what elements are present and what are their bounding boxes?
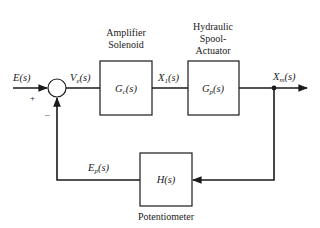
potentiometer-caption: Potentiometer: [138, 211, 195, 222]
spool-actuator-block: Hydraulic Spool- Actuator Gp(s): [188, 21, 239, 115]
minus-sign: –: [44, 109, 50, 119]
input-label: E(s): [12, 72, 31, 84]
spool-caption-1: Hydraulic: [193, 21, 234, 32]
amplifier-block: Amplifier Solenoid Gc(s): [100, 27, 152, 115]
potentiometer-block: H(s) Potentiometer: [138, 153, 195, 222]
amplifier-caption-2: Solenoid: [108, 39, 144, 50]
spool-caption-2: Spool-: [200, 33, 227, 44]
potentiometer-tf: H(s): [156, 174, 176, 186]
input-signal: E(s) +: [12, 72, 47, 103]
summing-junction: [48, 79, 66, 97]
feedback-label: Ep(s): [87, 162, 110, 175]
spool-caption-3: Actuator: [196, 45, 232, 56]
block-diagram: E(s) + – Ve(s) Amplifier Solenoid Gc(s) …: [0, 0, 320, 228]
output-label: Xm(s): [272, 71, 296, 84]
intermediate-label: X1(s): [157, 72, 180, 85]
amplifier-caption-1: Amplifier: [106, 27, 146, 38]
plus-sign: +: [30, 93, 35, 103]
error-label: Ve(s): [70, 72, 91, 85]
